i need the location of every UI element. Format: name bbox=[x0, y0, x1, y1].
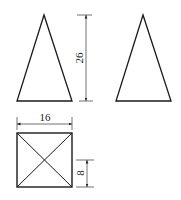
width-dimension: 16 bbox=[17, 111, 72, 130]
top-view bbox=[17, 133, 72, 187]
height-dimension: 26 bbox=[73, 15, 93, 101]
width-dimension-label: 16 bbox=[40, 111, 52, 123]
half-depth-dimension: 8 bbox=[74, 160, 94, 187]
front-view bbox=[17, 15, 72, 101]
height-dimension-label: 26 bbox=[73, 52, 85, 64]
side-view bbox=[116, 15, 171, 101]
drawing-canvas: 26 16 8 bbox=[0, 0, 181, 200]
half-depth-dimension-label: 8 bbox=[74, 170, 86, 176]
